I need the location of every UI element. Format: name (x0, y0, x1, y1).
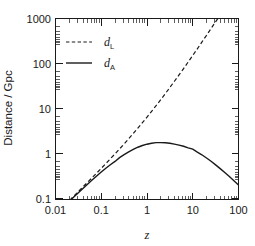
plot-frame (56, 19, 239, 200)
x-axis-title-group: z (144, 228, 150, 242)
x-tick-label-100: 100 (229, 204, 247, 216)
x-tick-label-1: 1 (144, 204, 150, 216)
legend-label-dA: dA (104, 56, 115, 72)
distance-vs-redshift-chart: Distance / Gpc z (0, 0, 255, 246)
y-tick-label-100: 100 (33, 58, 51, 70)
y-tick-label-1000: 1000 (27, 13, 51, 25)
x-axis-major-ticks (56, 19, 239, 200)
data-curves (56, 0, 239, 215)
y-tick-label-1: 1 (45, 148, 51, 160)
x-tick-label-0.1: 0.1 (94, 204, 109, 216)
x-tick-label-10: 10 (187, 204, 199, 216)
y-tick-label-10: 10 (39, 103, 51, 115)
series-dL-curve (56, 0, 239, 214)
legend-label-dA-sub: A (110, 63, 115, 72)
legend-label-dL-sub: L (110, 42, 114, 51)
y-axis-title: Distance / Gpc (2, 70, 14, 146)
x-axis-minor-ticks (69, 19, 236, 200)
figure-container: Distance / Gpc z (0, 0, 255, 246)
x-axis-tick-labels: 0.01 0.1 1 10 100 (45, 204, 248, 216)
x-tick-label-0.01: 0.01 (45, 204, 66, 216)
y-axis-major-ticks (56, 19, 239, 199)
y-axis-minor-ticks (56, 27, 239, 180)
x-axis-title: z (144, 228, 150, 242)
y-axis-tick-labels: 1000 100 10 1 0.1 (27, 13, 51, 205)
y-tick-label-0.1: 0.1 (36, 193, 51, 205)
legend-label-dL: dL (104, 35, 114, 51)
legend: dL dA (66, 35, 115, 72)
y-axis-title-group: Distance / Gpc (2, 70, 14, 146)
